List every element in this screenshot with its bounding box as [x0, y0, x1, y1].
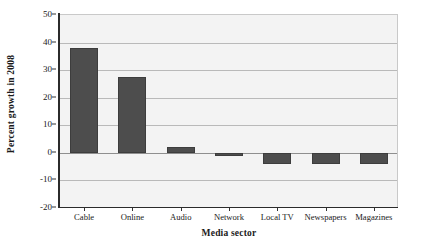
bar: [70, 48, 98, 153]
x-tick-label: Cable: [74, 212, 94, 222]
y-tick-mark: [52, 179, 56, 180]
y-tick-label: -20: [40, 202, 52, 212]
gridline-30: [60, 70, 397, 71]
y-axis-title: Percent growth in 2008: [0, 0, 22, 207]
bar: [360, 153, 388, 164]
x-tick-label: Local TV: [261, 212, 294, 222]
y-tick-label: 30: [43, 64, 52, 74]
y-tick-mark: [52, 41, 56, 42]
y-tick-mark: [52, 207, 56, 208]
y-tick-mark: [52, 69, 56, 70]
gridline-40: [60, 43, 397, 44]
y-tick-mark: [52, 124, 56, 125]
bar: [263, 153, 291, 164]
y-tick-label: 50: [43, 9, 52, 19]
y-tick-label: 20: [43, 92, 52, 102]
x-tick-mark: [84, 208, 85, 211]
x-tick-mark: [181, 208, 182, 211]
x-tick-label: Newspapers: [305, 212, 347, 222]
y-axis-tick-labels: 50403020100-10-20: [22, 14, 56, 207]
x-tick-mark: [277, 208, 278, 211]
bar: [167, 147, 195, 153]
bar: [118, 77, 146, 153]
y-tick-label: -10: [40, 174, 52, 184]
bar: [312, 153, 340, 164]
plot-area: [60, 14, 398, 207]
x-axis-tick-labels: CableOnlineAudioNetworkLocal TVNewspaper…: [60, 208, 398, 228]
x-tick-label: Magazines: [355, 212, 392, 222]
y-axis-title-text: Percent growth in 2008: [6, 54, 16, 152]
x-tick-mark: [132, 208, 133, 211]
bar-chart-figure: Percent growth in 2008 50403020100-10-20…: [0, 0, 422, 251]
x-tick-mark: [229, 208, 230, 211]
y-tick-mark: [52, 96, 56, 97]
gridline-10: [60, 125, 397, 126]
y-tick-mark: [52, 14, 56, 15]
x-tick-mark: [374, 208, 375, 211]
x-tick-label: Audio: [170, 212, 191, 222]
y-tick-label: 10: [43, 119, 52, 129]
x-tick-label: Network: [214, 212, 244, 222]
gridline--10: [60, 180, 397, 181]
y-tick-label: 40: [43, 37, 52, 47]
x-tick-label: Online: [121, 212, 144, 222]
x-tick-mark: [326, 208, 327, 211]
y-tick-mark: [52, 151, 56, 152]
gridline-20: [60, 98, 397, 99]
bar: [215, 153, 243, 156]
x-axis-title: Media sector: [60, 228, 398, 238]
